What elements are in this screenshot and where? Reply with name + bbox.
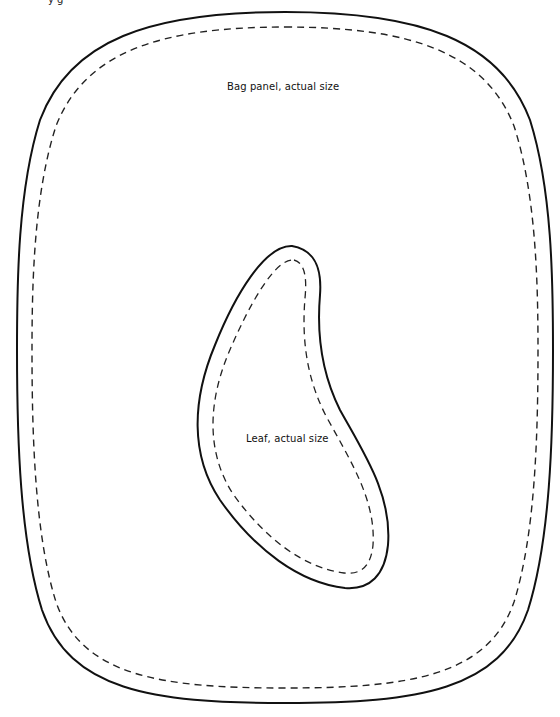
- pattern-drawing: [0, 0, 560, 717]
- bag-panel-label: Bag panel, actual size: [227, 81, 339, 92]
- bag-panel-seam-line: [32, 27, 538, 688]
- bag-panel-cut-line: [17, 12, 553, 703]
- leaf-seam-line: [213, 260, 373, 573]
- leaf-cut-line: [198, 246, 389, 588]
- pattern-page: y g Bag panel, actual size Leaf, actual …: [0, 0, 560, 717]
- leaf-label: Leaf, actual size: [246, 433, 329, 444]
